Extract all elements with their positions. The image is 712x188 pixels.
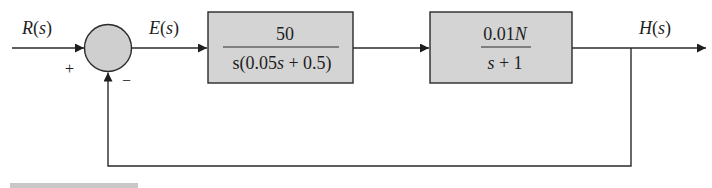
controller-denominator: s(0.05s + 0.5) xyxy=(232,53,331,74)
plus-sign: + xyxy=(65,60,74,77)
plant-block: 0.01N s + 1 xyxy=(430,12,572,83)
output-label: H(s) xyxy=(638,18,671,39)
summing-junction xyxy=(85,25,132,72)
controller-block: 50 s(0.05s + 0.5) xyxy=(208,12,353,83)
caption-strip xyxy=(10,183,138,188)
block-diagram: R(s) + − E(s) 50 s(0.05s + 0.5) 0.01N s … xyxy=(0,0,712,188)
input-label: R(s) xyxy=(21,18,52,39)
plant-numerator: 0.01N xyxy=(483,24,528,44)
minus-sign: − xyxy=(122,72,131,89)
controller-numerator: 50 xyxy=(276,24,294,44)
plant-denominator: s + 1 xyxy=(487,53,522,73)
error-label: E(s) xyxy=(148,18,179,39)
